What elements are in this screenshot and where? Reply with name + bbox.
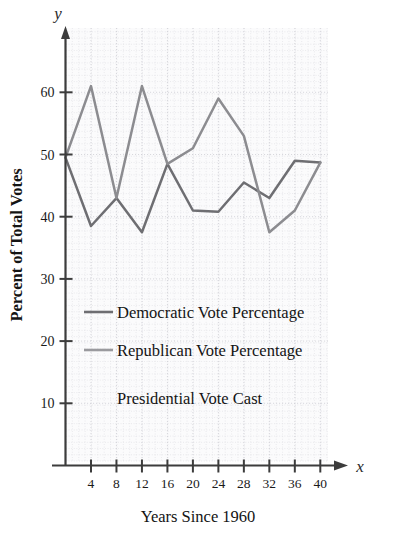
x-tick-label-16: 16 <box>161 476 175 491</box>
x-tick-label-24: 24 <box>212 476 226 491</box>
y-tick-label-60: 60 <box>41 85 55 100</box>
plot-title: Presidential Vote Cast <box>117 389 263 408</box>
y-tick-label-30: 30 <box>41 272 55 287</box>
x-tick-label-28: 28 <box>237 476 251 491</box>
x-tick-label-12: 12 <box>135 476 149 491</box>
y-tick-label-50: 50 <box>41 148 55 163</box>
y-axis-title: Percent of Total Votes <box>7 168 26 322</box>
x-tick-label-32: 32 <box>263 476 277 491</box>
legend-label-democratic: Democratic Vote Percentage <box>117 303 304 322</box>
x-axis-letter: x <box>355 457 364 476</box>
x-tick-label-40: 40 <box>314 476 328 491</box>
y-tick-label-10: 10 <box>41 396 55 411</box>
x-tick-label-4: 4 <box>88 476 95 491</box>
x-axis-tick-labels: 481216202428323640 <box>88 476 328 491</box>
legend-label-republican: Republican Vote Percentage <box>117 341 302 360</box>
presidential-vote-cast-chart: 102030405060 481216202428323640 y x Perc… <box>0 0 395 537</box>
y-axis-letter: y <box>52 4 62 23</box>
y-tick-label-20: 20 <box>41 334 55 349</box>
x-axis-arrowhead <box>334 461 348 471</box>
x-tick-label-36: 36 <box>288 476 302 491</box>
x-tick-label-8: 8 <box>113 476 120 491</box>
x-axis-title: Years Since 1960 <box>141 507 256 526</box>
y-axis-tick-labels: 102030405060 <box>41 85 55 411</box>
y-tick-label-40: 40 <box>41 210 55 225</box>
x-tick-label-20: 20 <box>186 476 200 491</box>
